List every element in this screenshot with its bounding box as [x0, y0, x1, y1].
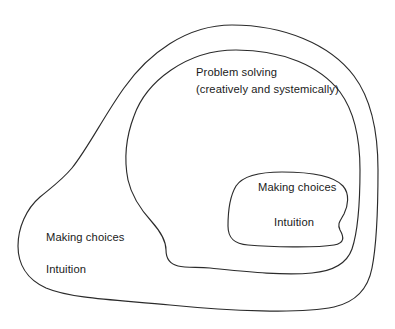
outer-region-making-choices-label: Making choices: [46, 229, 125, 246]
diagram-canvas: Problem solving (creatively and systemic…: [0, 0, 395, 329]
inner-region-making-choices-label: Making choices: [258, 179, 337, 196]
middle-region-label-line2: (creatively and systemically): [196, 81, 339, 98]
middle-region-label: Problem solving (creatively and systemic…: [196, 64, 339, 98]
middle-region-label-line1: Problem solving: [196, 64, 339, 81]
nested-regions-svg: [0, 0, 395, 329]
inner-region-intuition-label: Intuition: [274, 214, 314, 231]
outer-region-intuition-label: Intuition: [46, 261, 86, 278]
